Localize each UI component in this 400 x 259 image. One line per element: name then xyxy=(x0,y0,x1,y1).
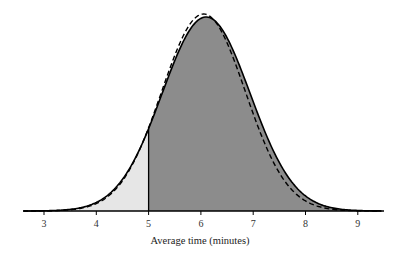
x-tick-label: 8 xyxy=(303,218,308,229)
x-tick-label: 7 xyxy=(251,218,256,229)
x-axis-title: Average time (minutes) xyxy=(151,235,250,247)
x-tick-label: 6 xyxy=(198,218,203,229)
x-tick-label: 3 xyxy=(42,218,47,229)
region-above-cutoff xyxy=(149,17,382,211)
x-tick-label: 5 xyxy=(146,218,151,229)
shaded-regions xyxy=(23,17,381,211)
x-axis-ticks: 3456789 xyxy=(42,211,361,229)
x-tick-label: 4 xyxy=(94,218,99,229)
normal-distribution-chart: 3456789 Average time (minutes) xyxy=(0,0,400,259)
x-tick-label: 9 xyxy=(355,218,360,229)
